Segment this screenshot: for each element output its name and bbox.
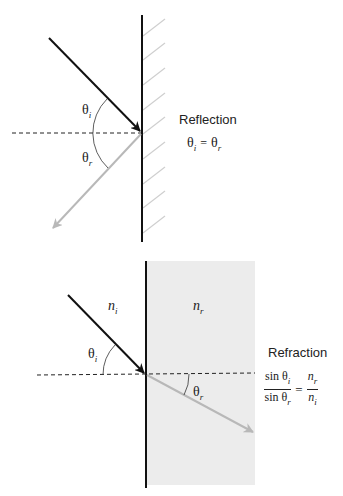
reflection-equation: θi = θr: [187, 133, 221, 153]
reflection-title: Reflection: [179, 112, 237, 127]
theta-r-label: θr: [82, 148, 92, 168]
n-r-label: nr: [193, 296, 204, 316]
incident-ray: [49, 38, 140, 131]
theta-i-label: θi: [88, 344, 97, 364]
reflection-diagram: [12, 15, 165, 242]
incident-angle-arc: [103, 345, 115, 375]
theta-i-label: θi: [82, 100, 91, 120]
snell-equation: sin θi sin θr = nr ni: [264, 370, 318, 409]
optics-diagram: [0, 0, 343, 496]
refraction-title: Refraction: [268, 345, 327, 360]
refraction-diagram: [37, 261, 255, 488]
reflected-ray: [53, 134, 141, 228]
mirror-hatching: [143, 19, 165, 233]
theta-r-label: θr: [193, 382, 203, 402]
incident-ray: [68, 295, 144, 373]
n-i-label: ni: [108, 296, 118, 316]
